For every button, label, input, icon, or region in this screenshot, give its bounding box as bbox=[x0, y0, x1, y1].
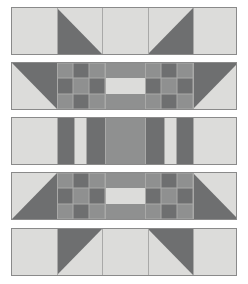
row-5-flying-geese-bottom-cell-plain-right bbox=[193, 229, 237, 275]
row-4-checkerboard-lower bbox=[11, 172, 237, 220]
checker-patch bbox=[177, 188, 193, 203]
seam-line bbox=[57, 173, 58, 219]
row-1-flying-geese-top-cell-hst-2 bbox=[148, 8, 193, 54]
checker-patch bbox=[177, 173, 193, 188]
checker-patch bbox=[89, 94, 105, 109]
checker-patch bbox=[89, 188, 105, 203]
triangle-patch bbox=[57, 229, 102, 275]
checker-patch bbox=[161, 63, 177, 78]
triangle-patch bbox=[193, 63, 237, 109]
row-4-checkerboard-lower-center-bar-block bbox=[105, 173, 145, 219]
seam-line bbox=[193, 118, 194, 164]
checker-patch bbox=[89, 173, 105, 188]
checker-patch bbox=[73, 173, 89, 188]
row-2-checkerboard-upper-corner-tri-right bbox=[193, 63, 237, 109]
seam-line bbox=[57, 63, 58, 109]
row-1-flying-geese-top-cell-plain-right bbox=[193, 8, 237, 54]
checker-patch bbox=[161, 173, 177, 188]
seam-line bbox=[145, 173, 146, 219]
seam-line bbox=[176, 118, 177, 164]
row-3-vertical-bars-bar-dark-right-1 bbox=[176, 118, 193, 164]
row-2-checkerboard-upper bbox=[11, 62, 237, 110]
seam-line bbox=[193, 229, 194, 275]
seam-line bbox=[193, 63, 194, 109]
row-2-checkerboard-upper-checkerboard-right bbox=[145, 63, 193, 109]
row-3-vertical-bars-bar-light-outer-left bbox=[12, 118, 57, 164]
seam-line bbox=[145, 63, 146, 109]
seam-line bbox=[105, 63, 106, 109]
row-3-vertical-bars-bar-dark-right-2 bbox=[145, 118, 164, 164]
checker-patch bbox=[57, 173, 73, 188]
checker-patch bbox=[145, 173, 161, 188]
seam-line bbox=[57, 8, 58, 54]
checker-patch bbox=[89, 63, 105, 78]
row-1-flying-geese-top bbox=[11, 7, 237, 55]
seam-line bbox=[102, 229, 103, 275]
row-3-vertical-bars bbox=[11, 117, 237, 165]
checker-patch bbox=[73, 204, 89, 219]
triangle-patch bbox=[12, 63, 57, 109]
checker-patch bbox=[177, 78, 193, 93]
checker-patch bbox=[145, 78, 161, 93]
checker-patch bbox=[57, 188, 73, 203]
checker-patch bbox=[89, 78, 105, 93]
row-1-flying-geese-top-cell-hst-1 bbox=[57, 8, 102, 54]
row-1-flying-geese-top-cell-plain-center bbox=[102, 8, 148, 54]
checker-patch bbox=[57, 94, 73, 109]
row-1-flying-geese-top-cell-plain-left bbox=[12, 8, 57, 54]
seam-line bbox=[102, 8, 103, 54]
row-5-flying-geese-bottom-cell-hst-2 bbox=[148, 229, 193, 275]
seam-line bbox=[86, 118, 87, 164]
checker-patch bbox=[161, 94, 177, 109]
checker-patch bbox=[145, 188, 161, 203]
row-5-flying-geese-bottom-cell-plain-center bbox=[102, 229, 148, 275]
row-5-flying-geese-bottom-cell-plain-left bbox=[12, 229, 57, 275]
checker-patch bbox=[73, 78, 89, 93]
row-2-checkerboard-upper-center-bar-block bbox=[105, 63, 145, 109]
seam-line bbox=[148, 229, 149, 275]
row-3-vertical-bars-bar-center-medium bbox=[105, 118, 145, 164]
seam-line bbox=[148, 8, 149, 54]
checker-patch bbox=[57, 204, 73, 219]
row-4-checkerboard-lower-checkerboard-right bbox=[145, 173, 193, 219]
row-2-checkerboard-upper-checkerboard-left bbox=[57, 63, 105, 109]
checker-patch bbox=[145, 204, 161, 219]
checker-patch bbox=[57, 78, 73, 93]
triangle-patch bbox=[12, 173, 57, 219]
triangle-patch bbox=[148, 229, 193, 275]
seam-line bbox=[57, 118, 58, 164]
center-light-bar bbox=[105, 188, 145, 204]
seam-line bbox=[145, 118, 146, 164]
row-5-flying-geese-bottom-cell-hst-1 bbox=[57, 229, 102, 275]
row-2-checkerboard-upper-corner-tri-left bbox=[12, 63, 57, 109]
row-3-vertical-bars-bar-light-outer-right bbox=[193, 118, 237, 164]
seam-line bbox=[193, 173, 194, 219]
checker-patch bbox=[89, 204, 105, 219]
checker-patch bbox=[161, 188, 177, 203]
triangle-patch bbox=[193, 173, 237, 219]
triangle-patch bbox=[57, 8, 102, 54]
seam-line bbox=[105, 118, 106, 164]
row-4-checkerboard-lower-checkerboard-left bbox=[57, 173, 105, 219]
checker-patch bbox=[73, 63, 89, 78]
seam-line bbox=[164, 118, 165, 164]
seam-line bbox=[105, 173, 106, 219]
checker-patch bbox=[177, 63, 193, 78]
quilt-diagram bbox=[0, 0, 248, 284]
center-light-bar bbox=[105, 78, 145, 94]
row-5-flying-geese-bottom bbox=[11, 228, 237, 276]
checker-patch bbox=[145, 94, 161, 109]
seam-line bbox=[74, 118, 75, 164]
checker-patch bbox=[161, 204, 177, 219]
row-3-vertical-bars-bar-light-narrow-left bbox=[74, 118, 86, 164]
checker-patch bbox=[145, 63, 161, 78]
checker-patch bbox=[57, 63, 73, 78]
triangle-patch bbox=[148, 8, 193, 54]
checker-patch bbox=[161, 78, 177, 93]
checker-patch bbox=[177, 204, 193, 219]
row-3-vertical-bars-bar-dark-left-2 bbox=[86, 118, 105, 164]
checker-patch bbox=[73, 188, 89, 203]
checker-patch bbox=[177, 94, 193, 109]
checker-patch bbox=[73, 94, 89, 109]
row-3-vertical-bars-bar-light-narrow-right bbox=[164, 118, 176, 164]
